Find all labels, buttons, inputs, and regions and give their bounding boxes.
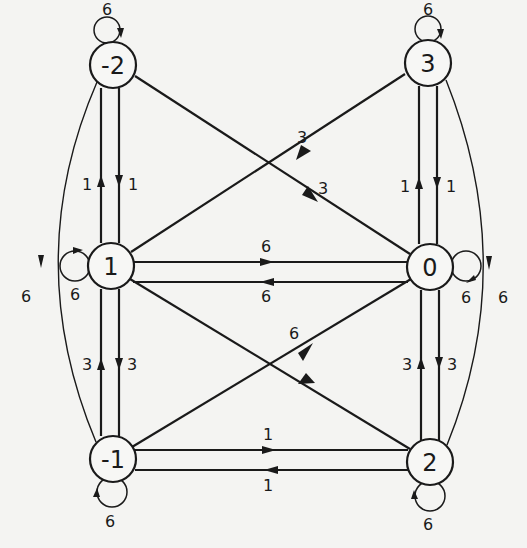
weight-m1-to-2: 1 [263, 425, 273, 444]
svg-text:1: 1 [103, 253, 118, 281]
weight-2-to-m1: 1 [263, 476, 273, 495]
svg-text:3: 3 [420, 50, 435, 78]
node-m2: -2 [90, 42, 136, 88]
edge-m2-to-0 [135, 76, 410, 254]
svg-text:-2: -2 [101, 52, 125, 80]
weight-m2-to-0: 3 [318, 179, 328, 198]
arrow-icon [296, 145, 311, 160]
node-m1: -1 [90, 436, 136, 482]
weight-m2-to-1: 1 [128, 175, 138, 194]
svg-text:-1: -1 [101, 446, 125, 474]
svg-text:2: 2 [422, 449, 437, 477]
edge-m1-to-0 [132, 279, 411, 447]
node-0: 0 [407, 244, 453, 290]
arrow-left-icon [260, 278, 274, 286]
self-loop-m2 [94, 17, 124, 43]
arrow-up-icon [93, 488, 100, 497]
weight-3-to-0: 1 [446, 177, 456, 196]
edge-m1-to-1 [97, 289, 105, 436]
weight-1-to-m2: 1 [82, 175, 92, 194]
weight-2-to-0: 3 [402, 355, 412, 374]
arrow-down-icon [115, 358, 123, 370]
node-1: 1 [88, 243, 134, 289]
edge-m1-to-2 [135, 446, 408, 454]
weight-loop-2: 6 [423, 515, 433, 534]
arrow-up-icon [97, 175, 105, 187]
svg-text:0: 0 [422, 254, 437, 282]
edge-m2-to-1 [115, 88, 123, 243]
weight-loop-0: 6 [461, 288, 471, 307]
arrow-right-icon [262, 446, 276, 454]
edge-2-to-m1 [135, 466, 408, 474]
arrow-left-icon [466, 275, 476, 283]
arrow-down-icon [38, 255, 44, 268]
weight-loop-m1: 6 [105, 512, 115, 531]
self-loop-1 [60, 247, 90, 281]
edge-0-to-2 [435, 290, 443, 440]
weight-3-to-1: 3 [297, 128, 307, 147]
weight-1-to-m1: 3 [127, 355, 137, 374]
weight-arc-3-to-2: 6 [498, 288, 508, 307]
self-loop-0 [451, 251, 481, 283]
arrow-up-icon [417, 357, 425, 369]
weight-arc-m2-to-m1: 6 [21, 287, 31, 306]
edge-1-to-m2 [97, 88, 105, 243]
edge-0-to-1 [133, 278, 408, 286]
edge-1-to-m1 [115, 289, 123, 436]
weight-0-to-2: 3 [447, 355, 457, 374]
arrow-down-icon [115, 175, 123, 187]
edge-2-to-0 [417, 290, 425, 440]
arrow-right-icon [260, 258, 274, 266]
arrow-icon [298, 373, 315, 384]
weight-0-to-3: 1 [400, 177, 410, 196]
arrow-up-icon [415, 177, 423, 189]
weight-m1-to-1: 3 [82, 355, 92, 374]
arrow-left-icon [264, 466, 278, 474]
edge-1-to-0 [133, 258, 408, 266]
arrow-up-icon [411, 490, 418, 499]
weight-loop-1: 6 [70, 285, 80, 304]
arrow-up-icon [97, 358, 105, 370]
edge-0-to-3 [415, 86, 423, 244]
weight-loop-3: 6 [423, 0, 433, 19]
arrow-down-icon [433, 177, 441, 189]
weight-0-to-1: 6 [261, 287, 271, 306]
arrow-down-icon [435, 357, 443, 369]
weight-1-to-0: 6 [261, 237, 271, 256]
node-3: 3 [405, 40, 451, 86]
self-loop-3 [415, 16, 444, 42]
arrow-down-icon [486, 256, 492, 270]
weight-m1-to-0: 6 [289, 324, 299, 343]
state-transition-graph: -2 3 1 0 -1 2 6 6 6 6 6 6 1 1 1 1 3 3 3 … [0, 0, 527, 548]
edge-3-to-0 [433, 86, 441, 244]
weight-loop-m2: 6 [102, 0, 112, 19]
node-2: 2 [407, 439, 453, 485]
